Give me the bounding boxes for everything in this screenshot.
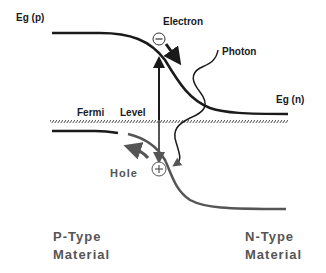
photon-label: Photon [222, 46, 256, 57]
eg-p-label: Eg (p) [16, 12, 44, 23]
band-diagram: Eg (p) Electron Photon Eg (n) Fermi Leve… [0, 0, 326, 273]
valence-band-curve-right [128, 134, 286, 209]
photon-path [175, 50, 218, 164]
hole-symbol [152, 162, 166, 176]
hole-label: Hole [110, 167, 138, 179]
n-type-label-line2: Material [245, 247, 302, 262]
p-type-label-line1: P-Type [53, 229, 101, 244]
electron-symbol [153, 33, 165, 45]
level-label: Level [120, 107, 146, 118]
valence-band-curve-left [52, 131, 118, 133]
electron-drift-arrow [166, 44, 176, 58]
p-type-label-line2: Material [53, 247, 110, 262]
n-type-label-line1: N-Type [245, 229, 294, 244]
fermi-level-line [50, 120, 288, 123]
hole-drift-arrow [132, 148, 148, 158]
electron-label: Electron [163, 16, 203, 27]
fermi-label: Fermi [77, 107, 104, 118]
eg-n-label: Eg (n) [276, 94, 304, 105]
